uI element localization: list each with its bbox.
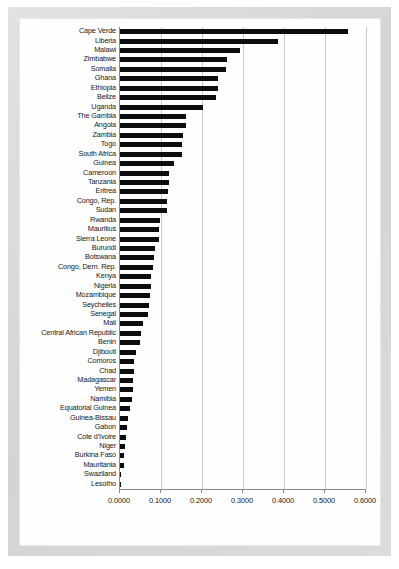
bar xyxy=(120,76,218,81)
bar xyxy=(120,227,159,232)
x-tick-mark xyxy=(201,489,202,493)
category-label: Somalia xyxy=(0,65,116,74)
bar xyxy=(120,369,134,374)
category-label: Senegal xyxy=(0,310,116,319)
bar xyxy=(120,378,133,383)
category-label: Zambia xyxy=(0,131,116,140)
bar xyxy=(120,340,140,345)
category-label: The Gambia xyxy=(0,112,116,121)
bar xyxy=(120,359,134,364)
bar xyxy=(120,321,143,326)
x-tick-mark xyxy=(242,489,243,493)
bar xyxy=(120,67,226,72)
bar xyxy=(120,472,121,477)
bar xyxy=(120,435,126,440)
bar xyxy=(120,274,151,279)
category-label: Uganda xyxy=(0,103,116,112)
category-label: Mauritius xyxy=(0,225,116,234)
bar xyxy=(120,114,186,119)
category-label: Nigeria xyxy=(0,282,116,291)
bar xyxy=(120,265,153,270)
x-tick-mark xyxy=(324,489,325,493)
category-label: Liberia xyxy=(0,37,116,46)
bar xyxy=(120,86,218,91)
bar xyxy=(120,284,151,289)
bar xyxy=(120,482,121,487)
category-label: Angola xyxy=(0,121,116,130)
category-label: Lesotho xyxy=(0,480,116,489)
bar xyxy=(120,39,278,44)
bar xyxy=(120,237,159,242)
category-label: Djibouti xyxy=(0,348,116,357)
category-label: Zimbabwe xyxy=(0,55,116,64)
bar xyxy=(120,180,169,185)
category-label: Burkina Faso xyxy=(0,451,116,460)
category-label: Cote d'Ivoire xyxy=(0,433,116,442)
category-label: South Africa xyxy=(0,150,116,159)
category-label: Congo, Rep. xyxy=(0,197,116,206)
bar xyxy=(120,406,130,411)
bar xyxy=(120,425,127,430)
category-label: Belize xyxy=(0,93,116,102)
category-label: Central African Republic xyxy=(0,329,116,338)
category-label: Benin xyxy=(0,338,116,347)
bar xyxy=(120,387,133,392)
category-label: Seychelles xyxy=(0,301,116,310)
category-label: Sierra Leone xyxy=(0,235,116,244)
category-label: Guinea xyxy=(0,159,116,168)
category-label: Togo xyxy=(0,140,116,149)
bar xyxy=(120,453,124,458)
x-tick-mark xyxy=(160,489,161,493)
bar xyxy=(120,463,124,468)
category-label: Swaziland xyxy=(0,470,116,479)
category-label: Gabon xyxy=(0,423,116,432)
scanned-page: Cape VerdeLiberiaMalawiZimbabweSomaliaGh… xyxy=(0,0,399,569)
x-tick-label: 0.6000 xyxy=(335,496,395,505)
bar xyxy=(120,218,160,223)
bar xyxy=(120,246,155,251)
bar xyxy=(120,57,227,62)
x-tick-mark xyxy=(365,489,366,493)
category-label: Equatorial Guinea xyxy=(0,404,116,413)
bar xyxy=(120,303,149,308)
category-label: Cameroon xyxy=(0,169,116,178)
category-label: Namibia xyxy=(0,395,116,404)
category-label: Eritrea xyxy=(0,187,116,196)
bar xyxy=(120,255,154,260)
bar xyxy=(120,199,167,204)
category-label: Rwanda xyxy=(0,216,116,225)
category-label: Mali xyxy=(0,319,116,328)
gridline xyxy=(243,27,244,489)
bar xyxy=(120,171,169,176)
bar xyxy=(120,416,128,421)
category-label: Malawi xyxy=(0,46,116,55)
bar xyxy=(120,105,203,110)
category-label: Kenya xyxy=(0,272,116,281)
category-label: Niger xyxy=(0,442,116,451)
bar xyxy=(120,397,132,402)
category-label: Guinea-Bissau xyxy=(0,414,116,423)
category-label: Congo, Dem. Rep. xyxy=(0,263,116,272)
gridline xyxy=(325,27,326,489)
bar xyxy=(120,29,348,34)
bar xyxy=(120,208,167,213)
bar xyxy=(120,48,240,53)
bar xyxy=(120,350,136,355)
category-label: Madagascar xyxy=(0,376,116,385)
category-label: Burundi xyxy=(0,244,116,253)
x-tick-mark xyxy=(119,489,120,493)
bar xyxy=(120,444,125,449)
bar xyxy=(120,331,141,336)
bar xyxy=(120,293,150,298)
category-label: Cape Verde xyxy=(0,27,116,36)
category-axis-labels: Cape VerdeLiberiaMalawiZimbabweSomaliaGh… xyxy=(24,27,116,489)
category-label: Comoros xyxy=(0,357,116,366)
category-label: Botswana xyxy=(0,253,116,262)
plot-area xyxy=(119,27,367,489)
category-label: Mauritania xyxy=(0,461,116,470)
horizontal-bar-chart: Cape VerdeLiberiaMalawiZimbabweSomaliaGh… xyxy=(0,0,399,569)
gridline xyxy=(366,27,367,489)
category-label: Mozambique xyxy=(0,291,116,300)
gridline xyxy=(284,27,285,489)
bar xyxy=(120,142,182,147)
